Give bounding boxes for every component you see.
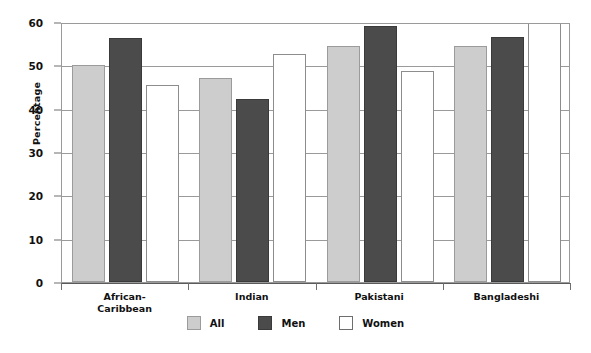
x-axis-group-label: Bangladeshi (473, 291, 539, 303)
chart-legend: AllMenWomen (0, 316, 591, 330)
y-tick-mark (54, 283, 61, 284)
bar (236, 99, 269, 282)
bars-layer (62, 24, 569, 282)
y-tick-label: 60 (28, 17, 43, 29)
y-tick-mark (54, 153, 61, 154)
x-tick-mark (570, 283, 571, 290)
x-axis-group-label: Pakistani (354, 291, 403, 303)
x-tick-mark (61, 283, 62, 290)
legend-label: Women (362, 318, 404, 329)
legend-entry[interactable]: Women (339, 316, 404, 330)
x-tick-mark (316, 283, 317, 290)
y-tick-label: 0 (36, 277, 43, 289)
y-axis-ticks: 0102030405060 (0, 0, 53, 353)
legend-swatch-icon (187, 316, 201, 330)
bar (273, 54, 306, 282)
bar (491, 37, 524, 282)
bar (72, 65, 105, 282)
legend-swatch-icon (258, 316, 272, 330)
y-tick-label: 50 (28, 60, 43, 72)
y-tick-mark (54, 109, 61, 110)
bar (327, 46, 360, 282)
bar (528, 23, 561, 282)
x-axis-group-label: African- Caribbean (97, 291, 152, 315)
y-tick-label: 20 (28, 190, 43, 202)
y-tick-mark (54, 66, 61, 67)
y-tick-label: 40 (28, 104, 43, 116)
plot-area (61, 23, 570, 283)
x-tick-mark (443, 283, 444, 290)
x-tick-mark (188, 283, 189, 290)
bar (146, 85, 179, 282)
y-tick-mark (54, 23, 61, 24)
y-tick-label: 10 (28, 234, 43, 246)
bar (401, 71, 434, 282)
bar (364, 26, 397, 282)
x-axis-group-label: Indian (235, 291, 269, 303)
bar-chart: Percentage 0102030405060 African- Caribb… (0, 0, 591, 353)
legend-swatch-icon (339, 316, 353, 330)
bar (454, 46, 487, 282)
bar (199, 78, 232, 282)
legend-entry[interactable]: Men (258, 316, 305, 330)
y-tick-label: 30 (28, 147, 43, 159)
y-tick-mark (54, 196, 61, 197)
legend-label: All (210, 318, 225, 329)
y-tick-mark (54, 239, 61, 240)
legend-label: Men (281, 318, 305, 329)
bar (109, 38, 142, 282)
legend-entry[interactable]: All (187, 316, 225, 330)
